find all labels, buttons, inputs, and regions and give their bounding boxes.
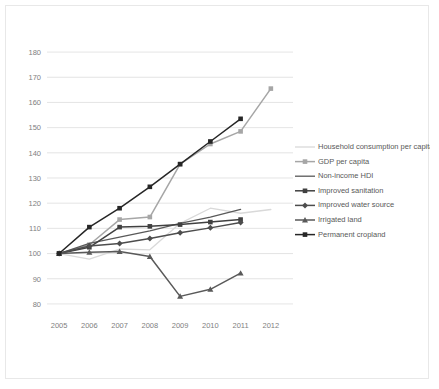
series-marker: [147, 235, 153, 241]
y-axis-tick-120: 120: [28, 199, 41, 208]
series-gdp-per-capita: [57, 86, 273, 256]
legend-label: Improved water source: [318, 200, 394, 209]
legend-label: Irrigated land: [318, 215, 362, 224]
legend-item-irrigated-land[interactable]: Irrigated land: [295, 215, 362, 224]
x-axis-tick-2006: 2006: [81, 321, 98, 330]
legend-item-gdp-per-capita[interactable]: GDP per capita: [295, 157, 370, 166]
series-marker: [208, 220, 213, 225]
legend-item-improved-water-source[interactable]: Improved water source: [295, 200, 394, 209]
y-axis-tick-180: 180: [28, 48, 41, 57]
y-axis-tick-90: 90: [33, 275, 41, 284]
legend-label: Household consumption per capita: [318, 142, 430, 151]
series-marker: [148, 215, 153, 220]
y-axis-tick-170: 170: [28, 73, 41, 82]
legend-item-permanent-cropland[interactable]: Permanent cropland: [295, 230, 386, 239]
legend-swatch-marker: [303, 189, 308, 194]
legend-swatch-marker: [303, 232, 308, 237]
legend-label: Non-income HDI: [318, 171, 373, 180]
series-marker: [117, 225, 122, 230]
series-marker: [207, 225, 213, 231]
x-axis-tick-2009: 2009: [172, 321, 189, 330]
x-axis-tick-2007: 2007: [111, 321, 128, 330]
x-axis-tick-2010: 2010: [202, 321, 219, 330]
series-marker: [269, 86, 274, 91]
series-marker: [117, 217, 122, 222]
series-household-consumption-per-capita: [59, 208, 271, 259]
series-permanent-cropland: [57, 117, 243, 256]
x-axis-tick-2012: 2012: [263, 321, 280, 330]
series-marker: [238, 117, 243, 122]
series-marker: [148, 185, 153, 190]
series-marker: [177, 230, 183, 236]
series-marker: [57, 251, 62, 256]
series-marker: [208, 139, 213, 144]
y-axis-tick-150: 150: [28, 123, 41, 132]
series-line: [59, 208, 271, 259]
chart-legend: Household consumption per capitaGDP per …: [295, 142, 430, 239]
y-axis-tick-160: 160: [28, 98, 41, 107]
legend-label: GDP per capita: [318, 157, 370, 166]
series-marker: [178, 222, 183, 227]
series-marker: [117, 206, 122, 211]
x-axis-tick-2008: 2008: [142, 321, 159, 330]
legend-item-household-consumption-per-capita[interactable]: Household consumption per capita: [295, 142, 430, 151]
series-marker: [178, 162, 183, 167]
series-marker: [117, 240, 123, 246]
y-axis-tick-140: 140: [28, 149, 41, 158]
legend-item-non-income-hdi[interactable]: Non-income HDI: [295, 171, 373, 180]
series-marker: [87, 225, 92, 230]
series-marker: [238, 129, 243, 134]
legend-label: Improved sanitation: [318, 186, 383, 195]
legend-label: Permanent cropland: [318, 230, 386, 239]
y-axis-tick-80: 80: [33, 300, 41, 309]
legend-swatch-marker: [302, 202, 308, 208]
y-axis-tick-130: 130: [28, 174, 41, 183]
y-axis-tick-110: 110: [29, 224, 41, 233]
legend-swatch-marker: [303, 159, 308, 164]
legend-item-improved-sanitation[interactable]: Improved sanitation: [295, 186, 383, 195]
x-axis-tick-2011: 2011: [233, 321, 249, 330]
series-marker: [238, 270, 244, 275]
x-axis-tick-2005: 2005: [51, 321, 68, 330]
series-irrigated-land: [56, 249, 244, 299]
series-marker: [148, 224, 153, 229]
y-axis-tick-100: 100: [28, 249, 41, 258]
chart-container: 8090100110120130140150160170180200520062…: [5, 5, 429, 379]
line-chart: 8090100110120130140150160170180200520062…: [6, 6, 430, 380]
